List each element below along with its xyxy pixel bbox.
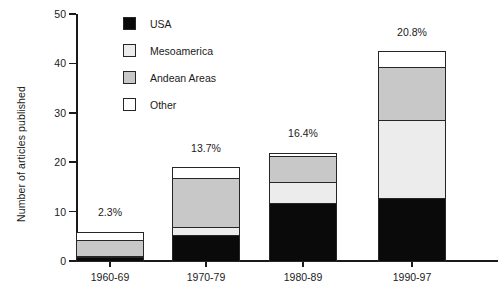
y-tick-mark [69, 260, 76, 262]
bar-segment-usa [378, 198, 446, 262]
legend-label-andean-areas: Andean Areas [150, 72, 216, 84]
bar-segment-mesoamerica [269, 182, 337, 204]
y-tick-label: 0 [36, 255, 66, 267]
y-tick-label: 40 [36, 57, 66, 69]
bar-1980-89 [269, 153, 337, 261]
bar-segment-other [378, 51, 446, 68]
percent-label-1990-97: 20.8% [377, 26, 447, 38]
bar-segment-usa [269, 203, 337, 262]
bar-segment-andean-areas [378, 67, 446, 121]
legend-item-other: Other [123, 91, 216, 118]
legend-item-usa: USA [123, 10, 216, 37]
bar-segment-andean-areas [172, 178, 240, 227]
legend-swatch-other [123, 98, 136, 111]
bar-1990-97 [378, 51, 446, 261]
y-tick-label: 50 [36, 8, 66, 20]
legend-label-usa: USA [150, 18, 172, 30]
bar-segment-usa [76, 257, 144, 262]
legend-swatch-usa [123, 17, 136, 30]
bar-1960-69 [76, 232, 144, 261]
bar-segment-mesoamerica [378, 120, 446, 199]
y-tick-label: 20 [36, 156, 66, 168]
y-tick-mark [69, 112, 76, 114]
y-tick-mark [69, 13, 76, 15]
percent-label-1960-69: 2.3% [75, 206, 145, 218]
y-tick-mark [69, 63, 76, 65]
x-tick-label: 1980-89 [258, 271, 348, 283]
legend: USA Mesoamerica Andean Areas Other [123, 10, 216, 118]
legend-swatch-andean-areas [123, 71, 136, 84]
percent-label-1970-79: 13.7% [171, 142, 241, 154]
y-axis-title: Number of articles published [15, 34, 27, 274]
percent-label-1980-89: 16.4% [268, 127, 338, 139]
bar-segment-usa [172, 235, 240, 262]
bar-segment-andean-areas [269, 156, 337, 183]
legend-swatch-mesoamerica [123, 44, 136, 57]
y-tick-label: 30 [36, 107, 66, 119]
x-tick-label: 1990-97 [367, 271, 457, 283]
legend-label-other: Other [150, 99, 176, 111]
bar-1970-79 [172, 167, 240, 261]
x-tick-label: 1970-79 [161, 271, 251, 283]
stacked-bar-chart: Number of articles published 01020304050… [0, 0, 501, 295]
legend-label-mesoamerica: Mesoamerica [150, 45, 213, 57]
y-tick-label: 10 [36, 206, 66, 218]
x-tick-label: 1960-69 [65, 271, 155, 283]
y-tick-mark [69, 161, 76, 163]
legend-item-mesoamerica: Mesoamerica [123, 37, 216, 64]
legend-item-andean-areas: Andean Areas [123, 64, 216, 91]
bar-segment-andean-areas [76, 240, 144, 257]
